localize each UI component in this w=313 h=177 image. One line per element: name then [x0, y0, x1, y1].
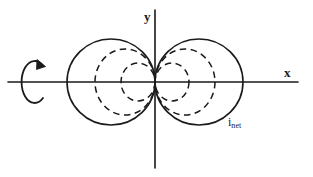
- y-axis-label: y: [144, 10, 151, 23]
- net-current-label: inet: [228, 116, 241, 130]
- axes-group: [8, 10, 298, 168]
- rotation-arrow-head-icon: [37, 60, 46, 70]
- x-axis-label: x: [284, 66, 291, 79]
- radiation-pattern-figure: x y inet: [0, 0, 313, 177]
- figure-canvas: [0, 0, 313, 177]
- net-current-subscript: net: [231, 121, 241, 130]
